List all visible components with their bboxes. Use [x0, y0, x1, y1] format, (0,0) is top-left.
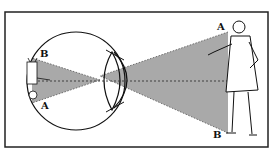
- label-man-bottom: B: [213, 129, 221, 140]
- eye-optics-diagram: B A A B: [0, 0, 277, 152]
- label-man-top: A: [216, 21, 225, 32]
- label-eye-bottom: A: [40, 100, 49, 111]
- diagram-canvas: B A A B: [0, 0, 277, 152]
- label-eye-top: B: [40, 48, 48, 59]
